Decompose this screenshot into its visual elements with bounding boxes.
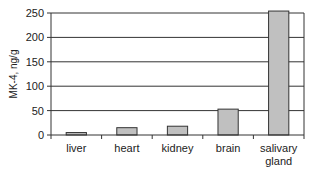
gridlines: [51, 13, 304, 135]
y-tick-label: 150: [26, 56, 44, 68]
y-tick-label: 250: [26, 7, 44, 19]
bar-heart: [117, 128, 137, 135]
y-tick-label: 50: [32, 105, 44, 117]
y-tick-label: 200: [26, 31, 44, 43]
x-category-label: kidney: [162, 142, 194, 154]
x-category-label: brain: [216, 142, 240, 154]
y-axis-label: MK-4, ng/g: [8, 50, 19, 99]
bar-kidney: [167, 126, 187, 135]
bar-salivary-gland: [269, 11, 289, 135]
x-category-label: liver: [66, 142, 87, 154]
bar-brain: [218, 109, 238, 135]
y-tick-label: 100: [26, 80, 44, 92]
bar-chart: 050100150200250 liverheartkidneybrainsal…: [0, 0, 317, 172]
x-category-label: salivary: [260, 142, 298, 154]
y-tick-label: 0: [38, 129, 44, 141]
axes: [47, 13, 304, 139]
x-category-labels: liverheartkidneybrainsalivarygland: [66, 142, 298, 167]
y-tick-labels: 050100150200250: [26, 7, 44, 141]
x-category-label: heart: [114, 142, 139, 154]
x-category-label: gland: [265, 155, 292, 167]
bars: [66, 11, 289, 135]
